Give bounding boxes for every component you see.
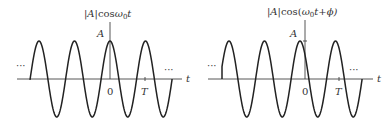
plot-title: |A|cos(ω0t+ϕ) xyxy=(267,6,337,19)
plot-title: |A|cosω0t xyxy=(84,8,132,21)
origin-label: 0 xyxy=(107,86,113,97)
amplitude-label: A xyxy=(96,28,104,39)
ellipsis-right: ··· xyxy=(164,64,174,75)
panel-left: |A|cosω0t A 0 T t ··· ··· xyxy=(16,8,191,117)
period-label: T xyxy=(335,86,343,97)
period-label: T xyxy=(141,86,149,97)
panel-right: |A|cos(ω0t+ϕ) A 0 T t ··· ··· xyxy=(207,6,382,117)
t-axis-label: t xyxy=(377,73,382,84)
ellipsis-left: ··· xyxy=(16,60,26,71)
ellipsis-right: ··· xyxy=(349,64,359,75)
origin-label: 0 xyxy=(302,86,308,97)
sinusoid-diagram: |A|cosω0t A 0 T t ··· ··· |A|cos(ω0t+ϕ) … xyxy=(0,0,391,129)
ellipsis-left: ··· xyxy=(207,60,217,71)
amplitude-label: A xyxy=(289,28,297,39)
t-axis-label: t xyxy=(186,73,191,84)
